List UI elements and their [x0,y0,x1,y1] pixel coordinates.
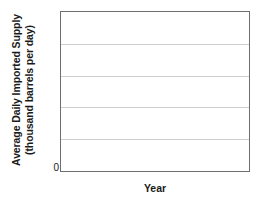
x-axis-title: Year [60,182,250,194]
gridline [61,76,249,77]
y-axis-title: Average Daily Imported Supply (thousand … [0,0,46,180]
y-axis-title-line-1: Average Daily Imported Supply [10,14,23,166]
y-axis-tick-label-zero: 0 [48,162,59,174]
gridline [61,139,249,140]
y-axis-title-text: Average Daily Imported Supply (thousand … [10,14,36,166]
y-axis-title-line-2: (thousand barrels per day) [23,14,36,166]
chart-figure: Average Daily Imported Supply (thousand … [0,0,260,202]
gridline [61,44,249,45]
plot-area [60,11,250,172]
gridline [61,107,249,108]
gridlines [61,12,249,171]
